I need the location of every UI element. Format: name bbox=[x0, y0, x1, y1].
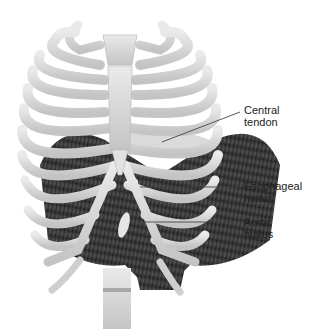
label-esophageal-hiatus: Esophageal hiatus bbox=[244, 180, 302, 204]
label-central-tendon-line2: tendon bbox=[244, 116, 279, 128]
label-aortic-hiatus-line1: Aortic bbox=[244, 216, 273, 228]
label-aortic-hiatus-line2: hiatus bbox=[244, 228, 273, 240]
label-aortic-hiatus: Aortic hiatus bbox=[244, 216, 273, 240]
label-esophageal-hiatus-line2: hiatus bbox=[244, 192, 302, 204]
label-central-tendon: Central tendon bbox=[244, 104, 279, 128]
label-central-tendon-line1: Central bbox=[244, 104, 279, 116]
vertebral-column bbox=[103, 268, 131, 329]
diaphragm-illustration bbox=[0, 0, 315, 329]
label-esophageal-hiatus-line1: Esophageal bbox=[244, 180, 302, 192]
